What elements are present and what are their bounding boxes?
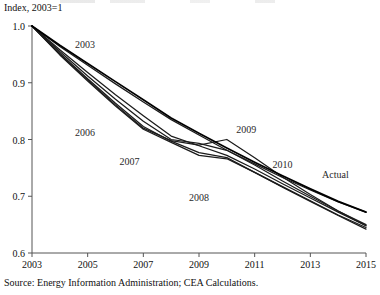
series-label-2009: 2009 [236,124,256,135]
x-tick-label: 2013 [300,259,320,270]
x-tick-label: 2007 [133,259,153,270]
y-tick-label: 0.9 [13,78,26,89]
y-tick-label: 0.8 [13,135,26,146]
y-tick-label: 0.7 [13,191,26,202]
plot-area: 1.00.90.80.70.62003200520072009201120132… [0,0,380,295]
source-note: Source: Energy Information Administratio… [4,277,258,289]
y-tick-label: 0.6 [13,248,26,259]
series-label-2006: 2006 [75,127,95,138]
x-tick-label: 2003 [22,259,42,270]
series-label-2008: 2008 [189,192,209,203]
chart-figure: Index, 2003=1 1.00.90.80.70.620032005200… [0,0,380,295]
x-tick-label: 2005 [78,259,98,270]
x-tick-label: 2009 [189,259,209,270]
x-tick-label: 2011 [245,259,265,270]
y-tick-label: 1.0 [13,21,26,32]
series-label-2007: 2007 [119,156,139,167]
x-tick-label: 2015 [356,259,376,270]
series-label-actual: Actual [322,169,349,180]
series-line-2003 [32,26,366,212]
series-label-2010: 2010 [273,159,293,170]
series-annotations-group: 200320062007200820092010Actual [75,39,349,203]
series-line-actual [32,26,366,212]
series-label-2003: 2003 [75,39,95,50]
